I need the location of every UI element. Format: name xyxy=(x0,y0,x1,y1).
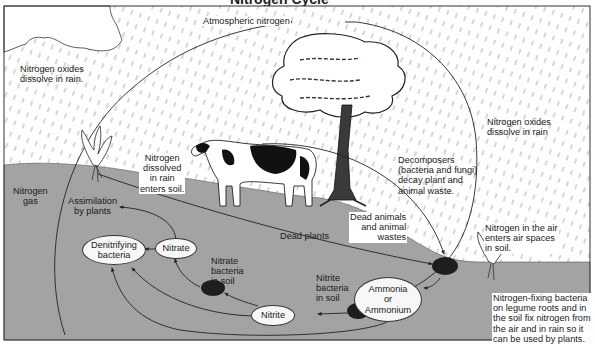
label-nitrate-bacteria: Nitrate bacteria in soil xyxy=(211,256,244,287)
label-nitrogen-gas: Nitrogen gas xyxy=(13,186,48,206)
nitrogen-cycle-diagram: Nitrogen Cycle xyxy=(0,0,595,346)
label-nitrogen-oxides-left: Nitrogen oxides dissolve in rain. xyxy=(20,64,84,84)
node-nitrite: Nitrite xyxy=(251,305,295,326)
label-atmospheric-nitrogen: Atmospheric nitrogen xyxy=(202,16,291,26)
label-decomposers: Decomposers (bacteria and fungi) decay p… xyxy=(398,155,477,196)
label-nitrogen-in-air: Nitrogen in the air enters air spaces in… xyxy=(484,223,559,254)
label-assimilation: Assimilation by plants xyxy=(68,196,117,216)
decomposer-clump xyxy=(432,257,458,275)
node-nitrate: Nitrate xyxy=(155,238,197,259)
node-ammonia-ammonium: Ammonia or Ammonium xyxy=(354,277,422,322)
label-nitrogen-oxides-right: Nitrogen oxides dissolve in rain xyxy=(487,117,551,137)
label-dead-plants: Dead plants xyxy=(280,231,329,241)
label-dead-animals: Dead animals and animal wastes xyxy=(349,212,407,243)
node-denitrifying-bacteria: Denitrifying bacteria xyxy=(82,235,146,265)
label-nitrite-bacteria: Nitrite bacteria in soil xyxy=(316,273,349,304)
label-dissolved-in-rain: Nitrogen dissolved in rain enters soil. xyxy=(139,153,185,194)
label-nitrogen-fixing: Nitrogen-fixing bacteria on legume roots… xyxy=(492,293,592,344)
